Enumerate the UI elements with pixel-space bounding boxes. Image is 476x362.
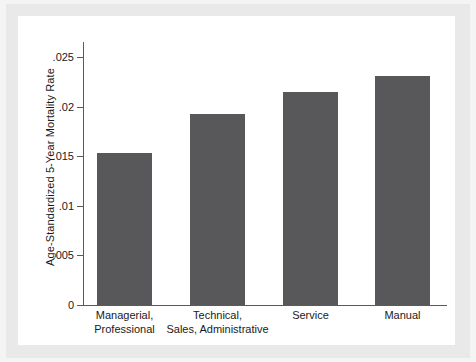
x-axis-label-line: Sales, Administrative — [143, 323, 293, 337]
y-axis-line — [83, 42, 84, 306]
bar-chart: Age-Standardized 5-Year Mortality Rate 0… — [18, 16, 455, 345]
y-axis-tick — [77, 206, 84, 207]
bar — [190, 114, 245, 305]
y-axis-tick — [77, 156, 84, 157]
x-axis-label-line: Manual — [328, 309, 476, 323]
y-axis-tick-label: .025 — [28, 51, 74, 63]
bar — [97, 153, 152, 305]
y-axis-tick-label: .015 — [28, 150, 74, 162]
y-axis-tick-label: .02 — [28, 101, 74, 113]
bar — [283, 92, 338, 305]
bar — [375, 76, 430, 305]
y-axis-tick — [77, 305, 84, 306]
y-axis-tick-label: .01 — [28, 200, 74, 212]
y-axis-tick — [77, 255, 84, 256]
plot-card: Age-Standardized 5-Year Mortality Rate 0… — [18, 16, 455, 345]
y-axis-tick — [77, 57, 84, 58]
x-axis-label: Manual — [328, 309, 476, 323]
x-axis-line — [83, 305, 447, 306]
y-axis-tick-label: .005 — [28, 249, 74, 261]
chart-page: Age-Standardized 5-Year Mortality Rate 0… — [0, 0, 476, 362]
y-axis-tick — [77, 107, 84, 108]
